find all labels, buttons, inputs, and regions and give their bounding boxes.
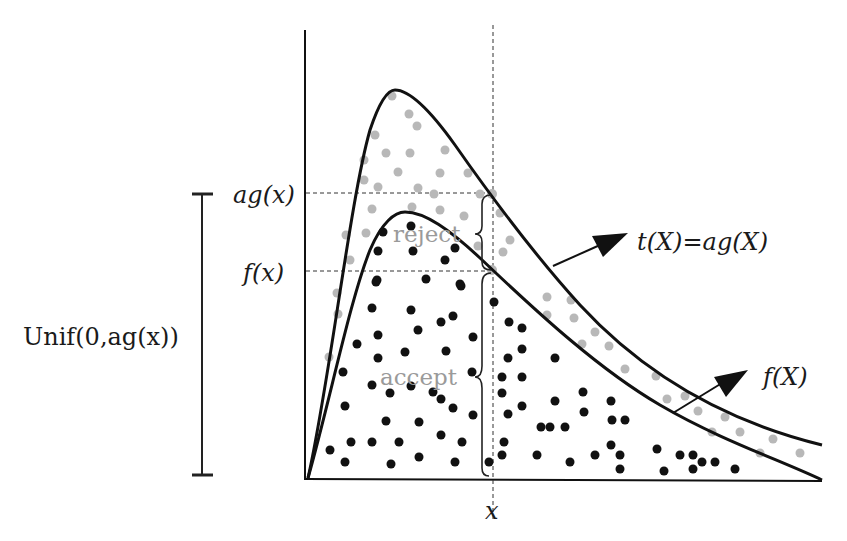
envelope-label: t(X)=ag(X) bbox=[637, 228, 768, 256]
reject-brace bbox=[475, 195, 491, 270]
target-arrow-head bbox=[714, 370, 748, 397]
envelope-arrow-head bbox=[592, 233, 628, 257]
unif-bracket bbox=[192, 194, 213, 475]
accepted-points bbox=[326, 222, 740, 476]
x-axis bbox=[305, 479, 822, 481]
unif-label: Unif(0,ag(x)) bbox=[23, 323, 179, 351]
fx-label: f(x) bbox=[241, 259, 284, 287]
envelope-arrow-shaft bbox=[553, 245, 600, 266]
reject-label: reject bbox=[393, 221, 461, 247]
target-label: f(X) bbox=[761, 363, 808, 391]
rejection-sampling-diagram: reject accept ag(x) f(x) Unif(0,ag(x)) x… bbox=[0, 0, 847, 541]
agx-label: ag(x) bbox=[233, 181, 295, 209]
accept-brace bbox=[475, 273, 491, 476]
rejected-points bbox=[325, 92, 805, 458]
x-label: x bbox=[485, 497, 499, 525]
accept-label: accept bbox=[380, 364, 458, 390]
